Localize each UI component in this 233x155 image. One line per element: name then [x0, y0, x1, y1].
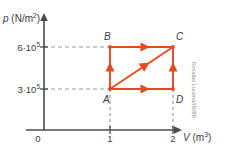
x-tick-label-0: 0 [33, 133, 43, 144]
y-tick-label-600000: 6·105 [7, 41, 40, 53]
pressure-volume-diagram: p (N/m2) V (m3) 6·105 3·105 0 1 2 B C A … [0, 0, 233, 155]
cycle-paths [106, 43, 178, 94]
y-axis-arrowhead [40, 13, 48, 21]
point-C [171, 45, 175, 49]
y-axis-label-units-close: ) [37, 13, 40, 24]
image-credit: Rosalbo Lucena/ID/BR [191, 62, 197, 118]
segment-A-to-C [110, 47, 173, 89]
x-tick-label-2: 2 [168, 133, 178, 144]
point-A [108, 87, 112, 91]
y-axis-label: p (N/m2) [3, 12, 40, 24]
x-tick-label-1: 1 [105, 133, 115, 144]
arrow-B-to-C [141, 43, 151, 52]
point-D [171, 87, 175, 91]
point-B [108, 45, 112, 49]
y-tick-label-300000-exponent: 5 [36, 83, 40, 90]
arrow-A-to-B [106, 62, 115, 72]
arrow-D-to-C [169, 62, 178, 72]
x-axis-label-units-close: ) [208, 132, 211, 143]
y-tick-label-600000-mantissa: 6·10 [17, 42, 36, 53]
point-label-A: A [103, 94, 110, 105]
y-axis-label-units: (N/m [11, 13, 33, 24]
point-label-C: C [176, 31, 183, 42]
y-tick-label-300000: 3·105 [7, 83, 40, 95]
y-tick-label-300000-mantissa: 3·10 [17, 84, 36, 95]
x-axis-label: V (m3) [183, 131, 211, 143]
point-label-B: B [104, 31, 111, 42]
x-axis-label-symbol: V [183, 132, 190, 143]
point-label-D: D [176, 94, 183, 105]
y-tick-label-600000-exponent: 5 [36, 41, 40, 48]
x-axis-label-units: (m [192, 132, 204, 143]
arrow-A-to-C [139, 63, 150, 72]
arrow-A-to-D [141, 85, 151, 94]
